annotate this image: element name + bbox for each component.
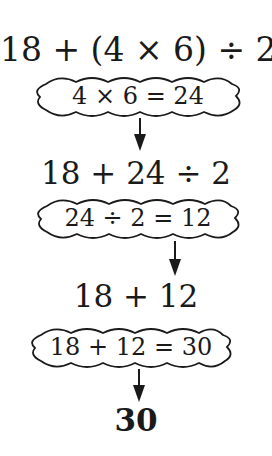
expression-1: 18 + (4 × 6) ÷ 2	[0, 30, 272, 69]
cloud-step-1: 4 × 6 = 24	[32, 74, 244, 120]
arrow-down-icon	[131, 369, 147, 403]
arrow-down-icon	[132, 118, 148, 152]
arrow-down-icon	[167, 241, 183, 277]
expression-2: 18 + 24 ÷ 2	[0, 155, 272, 191]
cloud-3-text: 18 + 12 = 30	[27, 333, 235, 361]
final-result: 30	[0, 402, 272, 438]
cloud-step-2: 24 ÷ 2 = 12	[33, 196, 243, 242]
cloud-2-text: 24 ÷ 2 = 12	[33, 204, 243, 232]
cloud-1-text: 4 × 6 = 24	[32, 82, 244, 110]
cloud-step-3: 18 + 12 = 30	[27, 325, 235, 371]
expression-3: 18 + 12	[0, 278, 272, 314]
